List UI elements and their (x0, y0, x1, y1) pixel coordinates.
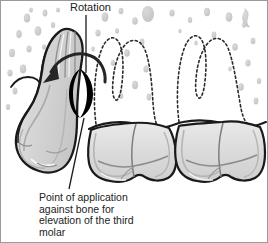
point-of-application-caption: Point of application against bone for el… (39, 192, 134, 238)
caption-line-2: against bone for (39, 203, 114, 215)
first-molar-crown (88, 123, 176, 182)
bone-contour-left (11, 77, 42, 87)
second-molar-crown (175, 121, 265, 181)
rotation-label: Rotation (70, 2, 111, 14)
dental-illustration-figure: Rotation Point of application against bo… (0, 0, 268, 243)
caption-line-1: Point of application (39, 191, 128, 203)
caption-line-3: elevation of the third (39, 214, 134, 226)
caption-line-4: molar (39, 226, 65, 238)
